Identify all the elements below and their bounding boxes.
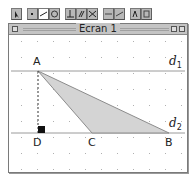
pointer-tool-button[interactable] xyxy=(11,8,22,20)
reflection-tool-button[interactable] xyxy=(103,8,114,20)
reflection-icon xyxy=(104,9,113,19)
tool-group-measure xyxy=(130,8,152,22)
point-icon xyxy=(28,9,37,19)
translation-tool-button[interactable] xyxy=(114,8,125,20)
pointer-icon xyxy=(12,9,21,19)
display-icon xyxy=(142,9,151,19)
point-label-d: D xyxy=(33,137,41,149)
measure-icon xyxy=(131,9,140,19)
title-bar[interactable]: Ecran 1 xyxy=(9,24,187,35)
midpoint-tool-button[interactable] xyxy=(87,8,98,20)
translation-icon xyxy=(115,9,124,19)
window-title: Ecran 1 xyxy=(76,23,120,34)
tool-group-transform xyxy=(103,8,125,22)
parallel-icon xyxy=(77,9,86,19)
line-tool-button[interactable] xyxy=(38,8,49,20)
line-icon xyxy=(39,9,48,19)
measure-tool-button[interactable] xyxy=(130,8,141,20)
midpoint-icon xyxy=(88,9,97,19)
drawing-canvas[interactable]: A D C B d1 d2 xyxy=(11,35,185,170)
right-angle-marker-icon xyxy=(38,126,45,133)
point-label-b: B xyxy=(165,137,173,149)
perpendicular-tool-button[interactable] xyxy=(65,8,76,20)
circle-icon xyxy=(50,9,59,19)
point-label-a: A xyxy=(33,56,41,68)
tool-group-create xyxy=(27,8,60,22)
point-label-c: C xyxy=(88,137,96,149)
parallel-tool-button[interactable] xyxy=(76,8,87,20)
line-label-d1: d1 xyxy=(169,55,182,72)
tool-group-select xyxy=(11,8,22,22)
perpendicular-icon xyxy=(66,9,75,19)
toolbar xyxy=(11,8,157,22)
zoom-box-icon[interactable] xyxy=(171,26,177,32)
document-window: Ecran 1 A D C B d1 d2 xyxy=(8,23,188,173)
point-tool-button[interactable] xyxy=(27,8,38,20)
line-label-d2: d2 xyxy=(169,117,182,134)
circle-tool-button[interactable] xyxy=(49,8,60,20)
collapse-box-icon[interactable] xyxy=(179,26,185,32)
tool-group-construct xyxy=(65,8,98,22)
display-tool-button[interactable] xyxy=(141,8,152,20)
